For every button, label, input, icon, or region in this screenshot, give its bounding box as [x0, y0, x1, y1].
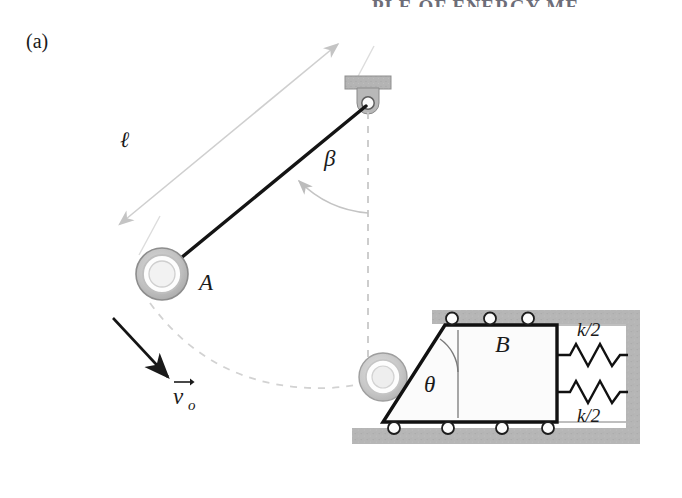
ghost-ball-inner [372, 366, 394, 388]
ball-a-inner [149, 261, 175, 287]
ball-a [136, 248, 188, 300]
figure-panel-a: PLE OF ENERGY ME (a) ℓ [0, 0, 682, 498]
spring-top-coil [557, 344, 628, 366]
beta-label: β [323, 146, 336, 171]
roller-top-3 [522, 313, 534, 325]
roller-bottom-2 [442, 422, 454, 434]
spring-top-label: k/2 [577, 319, 601, 340]
roller-bottom-4 [542, 422, 554, 434]
spring-bottom-label: k/2 [577, 405, 601, 426]
roller-bottom-1 [388, 422, 400, 434]
roller-bottom-3 [496, 422, 508, 434]
beta-arc [299, 181, 368, 213]
length-dimension: ℓ [120, 44, 374, 255]
block-b-body [383, 325, 557, 422]
ball-a-label: A [197, 270, 214, 295]
velocity-subscript-label: o [188, 397, 196, 413]
velocity-arrow [113, 318, 168, 377]
dimension-arrow [120, 44, 338, 224]
length-label: ℓ [120, 127, 130, 152]
panel-label: (a) [26, 30, 48, 53]
enclosure-right-wall [626, 310, 640, 444]
spring-bottom: k/2 [557, 381, 628, 426]
spring-top: k/2 [557, 319, 628, 366]
page-header-fragment: PLE OF ENERGY ME [372, 0, 579, 17]
velocity-label: v [173, 384, 184, 409]
pendulum-rod [170, 106, 366, 267]
physics-diagram-canvas: PLE OF ENERGY ME (a) ℓ [0, 0, 682, 498]
block-b-label: B [495, 331, 510, 357]
header-text: PLE OF ENERGY ME [372, 0, 579, 17]
pivot-support [345, 76, 391, 114]
roller-top-1 [446, 313, 458, 325]
swing-trajectory-dashed [150, 303, 372, 388]
beta-angle: β [299, 146, 368, 213]
support-plate [345, 76, 391, 89]
block-b: θ B [383, 325, 557, 422]
roller-top-2 [484, 313, 496, 325]
initial-velocity-vector: v o [113, 318, 196, 413]
theta-label: θ [424, 372, 435, 397]
spring-bottom-coil [557, 381, 628, 403]
accent-head [190, 379, 195, 386]
enclosure-ceiling [432, 310, 640, 324]
